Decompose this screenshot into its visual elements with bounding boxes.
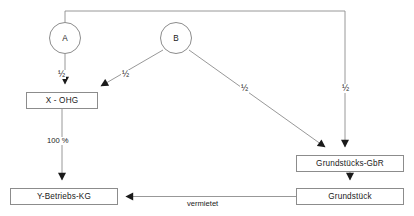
node-a-label: A (62, 34, 67, 43)
edge-label-grundstueck-to-y-betriebs-kg: vermietet (186, 200, 219, 208)
node-b-label: B (173, 34, 178, 43)
node-x-ohg-label: X - OHG (46, 96, 78, 105)
edge-b-to-x-ohg (101, 50, 163, 86)
node-grundstueck-label: Grundstück (328, 192, 371, 201)
node-x-ohg[interactable]: X - OHG (26, 92, 98, 109)
node-a[interactable]: A (49, 22, 81, 54)
edge-label-b-to-x-ohg: ½ (121, 70, 130, 79)
edge-label-x-ohg-to-y-betriebs-kg: 100 % (46, 137, 70, 145)
node-grundstuecks-gbr[interactable]: Grundstücks-GbR (296, 155, 404, 172)
edge-label-a-to-grundstuecks-gbr: ½ (341, 84, 350, 93)
edge-a-to-grundstuecks-gbr (65, 11, 345, 147)
node-grundstueck[interactable]: Grundstück (296, 188, 404, 205)
node-y-betriebs-kg[interactable]: Y-Betriebs-KG (10, 188, 118, 205)
node-y-betriebs-kg-label: Y-Betriebs-KG (37, 192, 91, 201)
edge-label-b-to-grundstuecks-gbr: ½ (240, 84, 249, 93)
edge-label-a-to-x-ohg: ½ (57, 70, 66, 79)
node-b[interactable]: B (160, 22, 192, 54)
diagram-canvas: A B X - OHG Grundstücks-GbR Y-Betriebs-K… (0, 0, 414, 216)
edge-b-to-grundstuecks-gbr (189, 50, 325, 147)
node-grundstuecks-gbr-label: Grundstücks-GbR (316, 159, 384, 168)
